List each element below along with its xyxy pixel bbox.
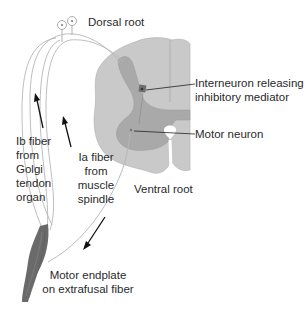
ganglion-cell-ia-nucleus [71, 20, 73, 22]
motor-neuron-cell [130, 129, 133, 132]
ia-fiber-label-3: muscle [70, 179, 122, 192]
ventral-fissure [170, 140, 171, 170]
motor-endplate-label-line1: Motor endplate [38, 269, 138, 282]
reflex-diagram [0, 0, 306, 315]
ib-arrow-icon [34, 93, 43, 128]
ganglion-cell-ib-nucleus [61, 24, 63, 26]
ib-fiber-label-2: from [16, 149, 39, 162]
interneuron-label-line1: Interneuron releasing [195, 77, 304, 90]
ib-fiber-label-4: tendon [16, 177, 51, 190]
interneuron-label-line2: inhibitory mediator [195, 91, 289, 104]
motor-neuron-label: Motor neuron [195, 128, 263, 141]
ia-fiber-label-4: spindle [70, 193, 122, 206]
ia-fiber-label-1: Ia fiber [70, 151, 122, 164]
ib-fiber-label-1: Ib fiber [16, 135, 51, 148]
ia-arrow-icon [62, 116, 71, 147]
motor-endplate-label-line2: on extrafusal fiber [38, 283, 138, 296]
ib-fiber-label-3: Golgi [16, 163, 43, 176]
interneuron-nucleus [141, 88, 143, 90]
ventral-root-label: Ventral root [134, 183, 193, 196]
ib-fiber-label-5: organ [16, 191, 45, 204]
ia-fiber-label-2: from [70, 165, 122, 178]
dorsal-root-label: Dorsal root [88, 16, 144, 29]
